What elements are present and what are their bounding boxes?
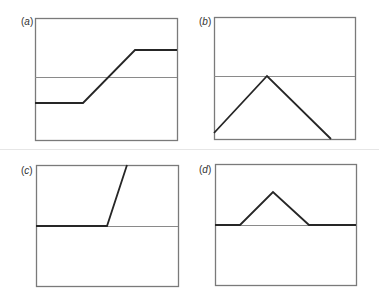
panel-a-label-close: ) [30, 16, 33, 27]
panel-b-label-close: ) [208, 16, 211, 27]
plot-canvas [0, 0, 379, 302]
figure: (a) (b) (c) (d) [0, 0, 379, 302]
panel-d-label: (d) [199, 165, 211, 175]
panel-c-label-close: ) [29, 165, 32, 176]
panel-a-label: (a) [21, 17, 33, 27]
panel-c [36, 165, 179, 287]
panel-b-curve [214, 76, 331, 139]
panel-d-curve [215, 192, 356, 225]
panel-b-label: (b) [199, 17, 211, 27]
panel-c-label: (c) [21, 166, 33, 176]
panel-d [215, 165, 357, 286]
panel-a-curve [35, 50, 177, 103]
panel-b-frame [215, 18, 356, 140]
panel-c-curve [36, 165, 127, 226]
panel-b [214, 18, 356, 140]
panel-a [35, 19, 178, 141]
panel-d-label-close: ) [208, 164, 211, 175]
